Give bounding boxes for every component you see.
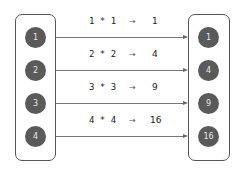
mapping-line-4 bbox=[56, 136, 183, 137]
operation-label-2: 2 * 2 bbox=[89, 49, 116, 59]
arrowhead-icon bbox=[183, 134, 188, 138]
arrow-icon: → bbox=[129, 116, 136, 125]
input-node-3: 3 bbox=[25, 93, 46, 114]
arrowhead-icon bbox=[183, 35, 188, 39]
mapping-line-1 bbox=[56, 37, 183, 38]
arrowhead-icon bbox=[183, 68, 188, 72]
mapping-line-2 bbox=[56, 70, 183, 71]
output-node-4: 16 bbox=[198, 126, 219, 147]
operation-label-3: 3 * 3 bbox=[89, 82, 116, 92]
arrow-icon: → bbox=[129, 83, 136, 92]
result-label-1: 1 bbox=[152, 16, 158, 26]
result-label-3: 9 bbox=[152, 82, 158, 92]
output-node-3: 9 bbox=[198, 93, 219, 114]
result-label-2: 4 bbox=[152, 49, 158, 59]
input-node-4: 4 bbox=[25, 126, 46, 147]
operation-label-4: 4 * 4 bbox=[89, 115, 116, 125]
output-node-1: 1 bbox=[198, 27, 219, 48]
result-label-4: 16 bbox=[150, 115, 161, 125]
mapping-line-3 bbox=[56, 103, 183, 104]
output-node-2: 4 bbox=[198, 60, 219, 81]
arrow-icon: → bbox=[129, 17, 136, 26]
arrowhead-icon bbox=[183, 101, 188, 105]
operation-label-1: 1 * 1 bbox=[89, 16, 116, 26]
input-node-2: 2 bbox=[25, 60, 46, 81]
arrow-icon: → bbox=[129, 50, 136, 59]
input-node-1: 1 bbox=[25, 27, 46, 48]
